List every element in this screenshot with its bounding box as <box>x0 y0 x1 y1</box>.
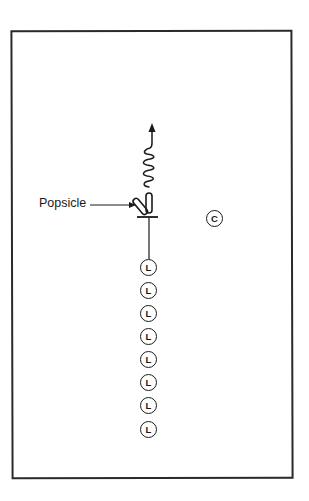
line-player-label: L <box>146 424 152 435</box>
line-player-label: L <box>146 377 152 388</box>
center-marker: C <box>206 210 223 227</box>
center-marker-label: C <box>211 213 218 224</box>
line-player-label: L <box>146 285 152 296</box>
popsicle-icon <box>132 193 152 216</box>
block-line <box>137 217 158 259</box>
label-pointer-arrow <box>90 202 136 208</box>
line-player-marker: L <box>140 282 157 299</box>
line-player-marker: L <box>140 328 157 345</box>
line-player-label: L <box>146 400 152 411</box>
line-player-marker: L <box>140 305 157 322</box>
line-player-label: L <box>146 354 152 365</box>
line-player-marker: L <box>140 397 157 414</box>
line-player-label: L <box>146 331 152 342</box>
line-player-marker: L <box>140 351 157 368</box>
motion-squiggle-arrow-icon <box>143 123 155 187</box>
line-player-marker: L <box>140 259 157 276</box>
line-player-label: L <box>146 262 152 273</box>
popsicle-label: Popsicle <box>39 196 86 210</box>
line-player-marker: L <box>140 374 157 391</box>
line-player-label: L <box>146 308 152 319</box>
line-player-marker: L <box>140 421 157 438</box>
